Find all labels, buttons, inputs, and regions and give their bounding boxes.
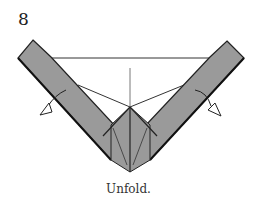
origami-diagram — [0, 0, 257, 207]
caption: Unfold. — [0, 182, 257, 196]
